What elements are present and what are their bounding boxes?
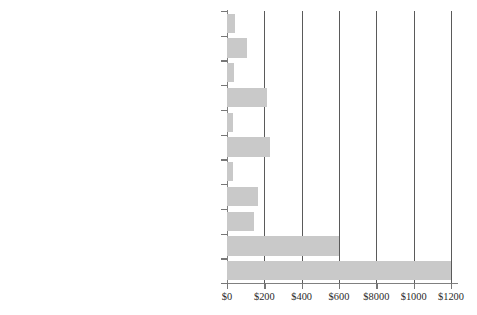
category-labels: Public HealthInsurance and Administratio… [0,0,477,315]
bar-chart: $0$200$400$600$8000$1000$1200 Public Hea… [0,0,477,315]
